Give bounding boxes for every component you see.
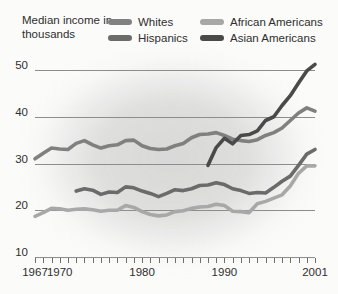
x-axis-tick [167,258,168,263]
x-axis-tick [43,258,44,263]
x-axis-tick [274,258,275,263]
legend-items: Whites African Americans Hispanics Asian… [108,14,332,46]
y-axis-tick-label: 10 [15,246,33,258]
x-axis-tick [216,258,217,263]
x-axis-label: 1967 [22,266,48,278]
x-axis-tick [208,258,209,263]
x-axis-tick [192,258,193,263]
x-axis-tick [117,258,118,263]
x-axis-labels: 19671970198019902001 [0,266,338,282]
x-axis-tick [93,258,94,263]
legend-label: Hispanics [138,32,188,44]
x-axis-tick [52,258,53,263]
x-axis-tick [134,258,135,263]
x-axis-tick [101,258,102,263]
x-axis-tick [76,258,77,263]
x-axis-tick [68,258,69,263]
x-axis-label: 1970 [47,266,73,278]
x-axis-tick [150,258,151,263]
x-axis-tick [307,258,308,263]
x-axis-tick [282,258,283,263]
legend-swatch-icon [200,19,224,25]
x-axis-tick [290,258,291,263]
y-axis-tick-label: 30 [15,153,33,165]
legend-item-hispanics: Hispanics [108,32,200,44]
y-axis-tick-label: 20 [15,199,33,211]
chart-legend: Median income in thousands Whites Africa… [0,0,338,48]
x-axis-tick [142,258,143,263]
series-line-hispanics [76,149,315,196]
x-axis-tick [35,258,36,263]
legend-label: Whites [138,16,173,28]
x-axis-tick [200,258,201,263]
legend-swatch-icon [200,35,224,41]
x-axis-tick [315,258,316,263]
x-axis-tick [266,258,267,263]
y-axis-tick-label: 50 [15,59,33,71]
x-axis-tick [233,258,234,263]
legend-label: African Americans [230,16,323,28]
legend-swatch-icon [108,19,132,25]
plot-area: 5040302010 [35,70,315,257]
legend-swatch-icon [108,35,132,41]
x-axis-ticks [35,258,315,264]
x-axis-tick [60,258,61,263]
x-axis-tick [241,258,242,263]
x-axis-tick [126,258,127,263]
x-axis-label: 1980 [129,266,155,278]
x-axis-tick [224,258,225,263]
x-axis-tick [183,258,184,263]
legend-row: Whites African Americans [108,14,332,30]
income-line-chart: Median income in thousands Whites Africa… [0,0,338,294]
y-axis-tick-label: 40 [15,106,33,118]
x-axis-tick [175,258,176,263]
y-axis-title: Median income in thousands [22,13,117,41]
x-axis-tick [109,258,110,263]
series-lines [35,70,315,257]
legend-label: Asian Americans [230,32,316,44]
legend-item-asian-americans: Asian Americans [200,32,332,44]
x-axis-tick [249,258,250,263]
x-axis-label: 2001 [302,266,328,278]
x-axis-tick [159,258,160,263]
x-axis-tick [299,258,300,263]
x-axis-tick [84,258,85,263]
legend-item-african-americans: African Americans [200,16,332,28]
legend-item-whites: Whites [108,16,200,28]
x-axis-tick [257,258,258,263]
legend-row: Hispanics Asian Americans [108,30,332,46]
x-axis-label: 1990 [212,266,238,278]
